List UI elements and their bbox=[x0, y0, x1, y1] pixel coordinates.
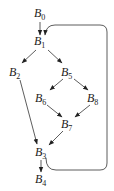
node-b6: B6 bbox=[35, 91, 46, 107]
node-b3: B3 bbox=[35, 145, 46, 161]
edge-b2-b3 bbox=[20, 80, 37, 144]
edge-b5-b6 bbox=[50, 79, 63, 90]
nodes: B0 B1 B2 B5 B6 B8 B7 B3 B4 bbox=[9, 6, 98, 188]
node-b4: B4 bbox=[35, 172, 46, 188]
edge-b1-b5 bbox=[48, 50, 62, 63]
node-b2: B2 bbox=[9, 65, 20, 81]
control-flow-diagram: B0 B1 B2 B5 B6 B8 B7 B3 B4 bbox=[0, 0, 114, 191]
node-b5: B5 bbox=[61, 65, 72, 81]
node-b7: B7 bbox=[61, 117, 72, 133]
node-b8: B8 bbox=[87, 91, 98, 107]
node-b1: B1 bbox=[34, 34, 45, 50]
edge-b5-b8 bbox=[74, 79, 88, 90]
node-b0: B0 bbox=[34, 6, 45, 22]
edge-b8-b7 bbox=[75, 105, 90, 117]
edge-b1-b2 bbox=[22, 50, 36, 63]
edge-b7-b3 bbox=[49, 131, 63, 145]
edge-b6-b7 bbox=[47, 105, 62, 117]
